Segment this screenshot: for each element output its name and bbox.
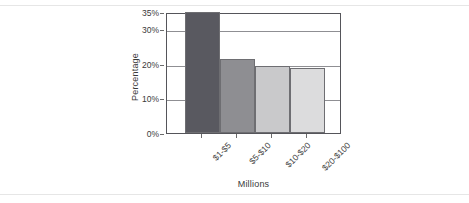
- x-tick-label: $20-$100: [321, 141, 353, 173]
- bar-series: [167, 14, 340, 133]
- x-tick-label: $1-$5: [211, 141, 233, 163]
- x-axis-title: Millions: [166, 179, 341, 189]
- x-tick-mark: [271, 134, 272, 138]
- y-tick-mark: [160, 30, 164, 31]
- y-tick-mark: [160, 13, 164, 14]
- y-axis-tick-labels: 0%10%20%30%35%: [133, 10, 163, 138]
- bar-2: [220, 59, 255, 133]
- x-tick-label: $10-$20: [284, 141, 312, 169]
- y-tick-label: 0%: [147, 130, 159, 139]
- y-tick-label: 35%: [142, 9, 159, 18]
- bar-chart-figure: Percentage 0%10%20%30%35% $1-$5$5-$10$10…: [0, 0, 469, 203]
- y-tick-mark: [160, 99, 164, 100]
- x-tick-mark: [201, 134, 202, 138]
- y-tick-label: 10%: [142, 95, 159, 104]
- y-tick-label: 30%: [142, 26, 159, 35]
- x-tick-label: $5-$10: [248, 141, 273, 166]
- x-axis-tick-labels: $1-$5$5-$10$10-$20$20-$100: [166, 134, 341, 178]
- plot-area: [166, 13, 341, 134]
- y-tick-mark: [160, 134, 164, 135]
- bar-4: [290, 68, 325, 133]
- y-tick-label: 20%: [142, 61, 159, 70]
- bar-1: [185, 12, 220, 133]
- y-tick-mark: [160, 65, 164, 66]
- bar-3: [255, 66, 290, 133]
- x-tick-mark: [236, 134, 237, 138]
- x-tick-mark: [306, 134, 307, 138]
- y-axis-title-container: Percentage: [107, 20, 127, 135]
